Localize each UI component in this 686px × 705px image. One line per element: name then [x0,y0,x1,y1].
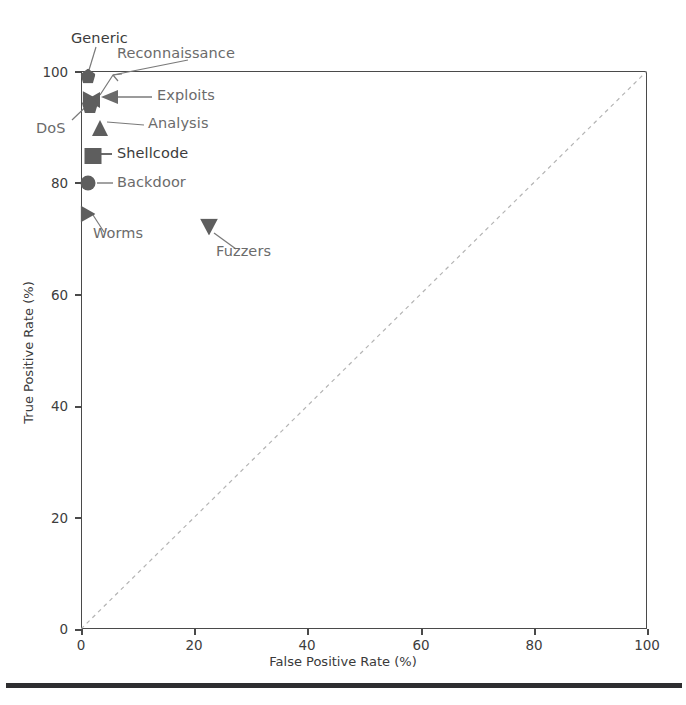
annotation-label-generic: Generic [71,30,128,46]
y-axis-title: True Positive Rate (%) [21,253,36,453]
x-tick-40 [307,629,309,635]
annotation-label-dos: DoS [36,120,66,136]
x-tick-20 [194,629,196,635]
y-tick-label-80: 80 [28,175,68,191]
annotation-label-exploits: Exploits [157,87,215,103]
y-tick-label-100: 100 [28,64,68,80]
annotation-label-fuzzers: Fuzzers [216,243,271,259]
x-tick-label-40: 40 [282,637,332,653]
x-axis-title: False Positive Rate (%) [0,654,686,669]
annotation-label-analysis: Analysis [148,115,209,131]
x-tick-0 [81,629,83,635]
y-tick-label-20: 20 [28,510,68,526]
annotation-label-reconnaissance: Reconnaissance [117,45,235,61]
x-tick-label-60: 60 [396,637,446,653]
x-tick-label-100: 100 [622,637,672,653]
x-tick-label-20: 20 [169,637,219,653]
page-bottom-rule [6,683,682,688]
y-tick-label-0: 0 [28,621,68,637]
x-tick-60 [421,629,423,635]
roc-scatter-figure: 100 80 60 40 20 0 0 20 40 60 80 100 [0,0,686,705]
annotation-label-shellcode: Shellcode [117,145,188,161]
x-tick-100 [647,629,649,635]
x-tick-label-80: 80 [509,637,559,653]
annotation-label-worms: Worms [93,225,143,241]
x-tick-label-0: 0 [56,637,106,653]
x-tick-80 [534,629,536,635]
annotation-label-backdoor: Backdoor [117,174,186,190]
